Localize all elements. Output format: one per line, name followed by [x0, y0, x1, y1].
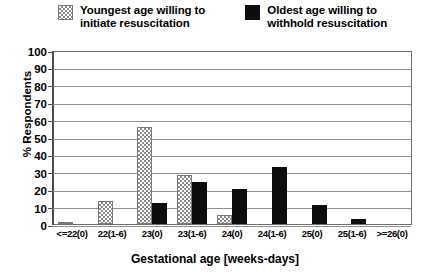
- bar-hatched: [177, 175, 192, 224]
- bar-solid: [351, 219, 366, 224]
- legend-entry-oldest: Oldest age willing to withhold resuscita…: [245, 4, 387, 29]
- bar-group: [53, 52, 93, 224]
- legend-label-oldest: Oldest age willing to withhold resuscita…: [267, 4, 387, 29]
- x-axis-tick-label: 25(1-6): [332, 228, 372, 239]
- y-axis-tick-label: 30: [34, 168, 47, 180]
- chart-legend: Youngest age willing to initiate resusci…: [58, 4, 387, 29]
- plot-frame: 0102030405060708090100: [52, 51, 412, 225]
- y-axis-tick-label: 60: [34, 116, 47, 128]
- x-axis-tick-label: <=22(0): [52, 228, 92, 239]
- plot-area: 0102030405060708090100: [52, 51, 412, 225]
- x-axis-tick-label: >=26(0): [372, 228, 412, 239]
- y-axis-tick-label: 10: [34, 203, 47, 215]
- bar-group: [93, 52, 133, 224]
- x-axis-tick-label: 23(1-6): [172, 228, 212, 239]
- y-axis-title: % Respondents: [21, 59, 33, 169]
- bar-group: [212, 52, 252, 224]
- bar-solid: [272, 167, 287, 224]
- bar-hatched: [217, 215, 232, 224]
- y-axis-tick-label: 100: [28, 46, 47, 58]
- bar-hatched: [98, 201, 113, 224]
- bar-hatched: [137, 127, 152, 224]
- bar-group: [331, 52, 371, 224]
- bar-group: [252, 52, 292, 224]
- legend-entry-youngest: Youngest age willing to initiate resusci…: [58, 4, 205, 29]
- bar-solid: [312, 205, 327, 224]
- y-axis-tick-label: 80: [34, 81, 47, 93]
- hatched-swatch-icon: [58, 5, 73, 20]
- bar-group: [172, 52, 212, 224]
- bar-solid: [192, 182, 207, 224]
- x-axis-tick-label: 23(0): [132, 228, 172, 239]
- x-axis-tick-label: 22(1-6): [92, 228, 132, 239]
- y-axis-tick-label: 40: [34, 150, 47, 162]
- y-axis-tick-label: 70: [34, 98, 47, 110]
- y-axis-tick-label: 20: [34, 185, 47, 197]
- gridline: [53, 226, 411, 227]
- solid-swatch-icon: [245, 5, 260, 20]
- x-axis-tick-label: 24(1-6): [252, 228, 292, 239]
- bar-solid: [152, 203, 167, 224]
- x-axis-title: Gestational age [weeks-days]: [0, 252, 430, 266]
- bar-group: [292, 52, 332, 224]
- x-axis-tick-labels: <=22(0)22(1-6)23(0)23(1-6)24(0)24(1-6)25…: [52, 228, 412, 239]
- bar-group: [133, 52, 173, 224]
- bar-series-layer: [53, 52, 411, 224]
- x-axis-tick-label: 25(0): [292, 228, 332, 239]
- y-axis-tick-label: 90: [34, 63, 47, 75]
- x-axis-tick-label: 24(0): [212, 228, 252, 239]
- y-axis-tick-label: 50: [34, 133, 47, 145]
- bar-solid: [232, 189, 247, 224]
- y-axis-tick-mark: [48, 226, 53, 227]
- y-axis-tick-label: 0: [41, 220, 47, 232]
- legend-label-youngest: Youngest age willing to initiate resusci…: [80, 4, 205, 29]
- bar-group: [371, 52, 411, 224]
- bar-hatched: [58, 222, 73, 224]
